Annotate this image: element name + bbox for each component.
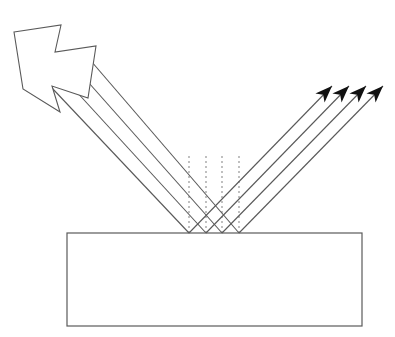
reflected-arrowheads-group (315, 81, 387, 102)
incident-ray-2 (63, 77, 206, 233)
incident-ray-4 (85, 54, 239, 233)
incident-ray-1 (52, 88, 189, 233)
reflection-canvas (0, 0, 395, 337)
incident-ray-3 (73, 65, 222, 233)
reflected-ray-3 (222, 86, 366, 233)
reflecting-slab (67, 233, 362, 326)
normal-lines-group (189, 156, 239, 233)
reflected-ray-2 (206, 86, 349, 233)
reflection-diagram (0, 0, 395, 337)
reflected-rays-group (189, 86, 383, 233)
